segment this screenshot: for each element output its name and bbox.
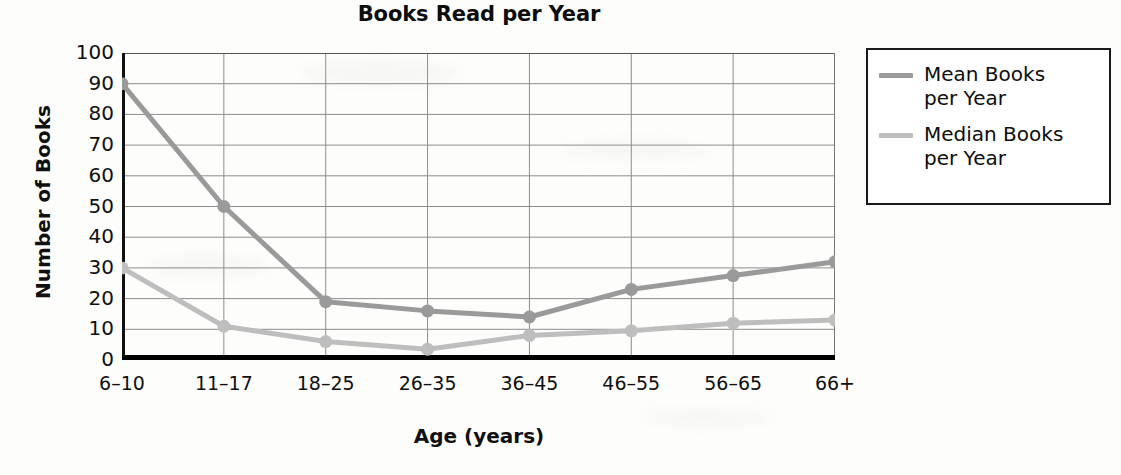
chart-figure: Books Read per Year Number of Books Age … (0, 0, 1121, 475)
data-point-median (319, 335, 332, 348)
plot-area (122, 53, 835, 360)
legend-label-mean: Mean Books per Year (924, 62, 1045, 111)
data-point-median (829, 314, 836, 327)
data-point-mean (217, 200, 230, 213)
data-point-mean (727, 269, 740, 282)
legend-label-median: Median Books per Year (924, 122, 1063, 171)
data-point-mean (829, 255, 836, 268)
chart-canvas (122, 53, 835, 360)
data-point-median (523, 329, 536, 342)
data-point-median (421, 343, 434, 356)
data-point-median (625, 324, 638, 337)
data-point-median (217, 320, 230, 333)
series-line-mean (122, 84, 835, 317)
legend-label-mean-line1: Mean Books (924, 62, 1045, 86)
data-point-mean (421, 304, 434, 317)
data-point-mean (319, 295, 332, 308)
legend-item-mean[interactable]: Mean Books per Year (879, 62, 1045, 111)
legend-item-median[interactable]: Median Books per Year (879, 122, 1063, 171)
legend-label-mean-line2: per Year (924, 86, 1045, 110)
data-point-median (727, 317, 740, 330)
data-point-mean (523, 311, 536, 324)
legend-label-median-line1: Median Books (924, 122, 1063, 146)
data-point-mean (625, 283, 638, 296)
chart-legend: Mean Books per Year Median Books per Yea… (866, 48, 1111, 205)
legend-swatch-mean (879, 73, 913, 78)
legend-swatch-median (879, 133, 913, 138)
x-tick-label: 66+ (775, 372, 895, 394)
legend-label-median-line2: per Year (924, 146, 1063, 170)
series-line-median (122, 268, 835, 349)
